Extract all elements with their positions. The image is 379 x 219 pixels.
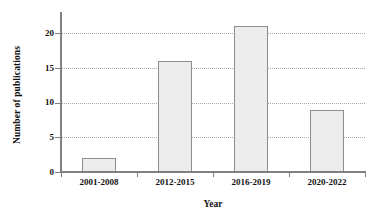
x-tick-mark-4 — [365, 171, 366, 177]
x-tick-label-2020-2022: 2020-2022 — [289, 177, 365, 188]
bar-2012-2015 — [158, 61, 193, 172]
plot-area — [61, 16, 365, 172]
bar-chart: Number of publications 0 5 10 15 20 2001… — [0, 0, 379, 219]
bar-2016-2019 — [234, 26, 269, 172]
gridline-15 — [61, 68, 365, 69]
x-tick-label-2016-2019: 2016-2019 — [213, 177, 289, 188]
y-axis-spine — [60, 12, 62, 173]
y-tick-label-2: 10 — [14, 98, 54, 107]
bar-2020-2022 — [310, 110, 345, 172]
x-tick-label-2001-2008: 2001-2008 — [61, 177, 137, 188]
x-tick-label-2012-2015: 2012-2015 — [137, 177, 213, 188]
gridline-20 — [61, 33, 365, 34]
y-tick-label-4: 20 — [14, 29, 54, 38]
gridline-10 — [61, 103, 365, 104]
y-tick-label-1: 5 — [14, 133, 54, 142]
bar-2001-2008 — [82, 158, 117, 172]
x-axis-title: Year — [61, 198, 365, 210]
y-tick-label-3: 15 — [14, 64, 54, 73]
y-tick-label-0: 0 — [14, 168, 54, 177]
